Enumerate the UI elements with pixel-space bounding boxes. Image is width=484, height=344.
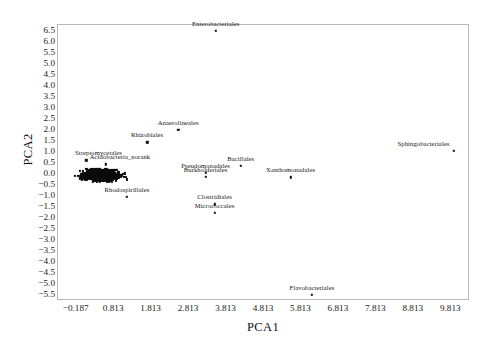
data-point	[115, 176, 117, 178]
data-point-label: Flavobacteriales	[290, 284, 335, 291]
data-point	[88, 169, 90, 171]
data-point	[82, 172, 84, 174]
data-point	[124, 172, 126, 174]
data-point	[111, 181, 113, 183]
data-point	[289, 176, 291, 178]
plot-area	[57, 24, 469, 300]
data-point-label: Burkholderiales	[184, 166, 228, 173]
y-axis-tick: −3.5	[5, 245, 55, 255]
data-point-label: Rhodospirillales	[105, 186, 150, 193]
y-axis-tick: −0.5	[5, 179, 55, 189]
y-axis-tick: 4.5	[5, 69, 55, 79]
data-point-label: Rhizobiales	[131, 131, 163, 138]
y-axis-tick: −1.0	[5, 190, 55, 200]
data-point	[80, 175, 82, 177]
data-point	[240, 165, 242, 167]
data-point	[98, 168, 100, 170]
y-axis-tick: −3.0	[5, 234, 55, 244]
y-axis-tick: −4.5	[5, 267, 55, 277]
data-point	[92, 178, 94, 180]
data-point	[103, 180, 105, 182]
data-point-label: Bacillales	[227, 155, 254, 162]
y-axis-tick: 3.0	[5, 102, 55, 112]
y-axis-tick: −2.0	[5, 212, 55, 222]
data-point	[106, 175, 108, 177]
data-point	[117, 172, 119, 174]
y-axis-tick: −1.5	[5, 201, 55, 211]
data-point-label: Sphingobacteriales	[398, 140, 450, 147]
data-point	[96, 177, 98, 179]
y-axis-tick: −5.0	[5, 278, 55, 288]
data-point	[452, 149, 454, 151]
data-point-label: Enterobacteriales	[192, 20, 239, 27]
y-axis-tick: −2.5	[5, 223, 55, 233]
x-axis-tick-layer: −0.1870.8131.8132.8133.8134.8135.8136.81…	[0, 303, 484, 319]
pca-scatter-chart: 6.56.05.55.04.54.03.53.02.52.01.51.00.50…	[0, 0, 484, 344]
x-axis-title: PCA1	[57, 320, 469, 335]
data-point	[74, 175, 76, 177]
y-axis-tick: −5.5	[5, 289, 55, 299]
y-axis-tick: 5.5	[5, 47, 55, 57]
data-point	[79, 170, 81, 172]
data-point	[111, 173, 113, 175]
data-point	[204, 176, 206, 178]
data-point-label: Anaerolineales	[158, 119, 199, 126]
data-point	[91, 173, 93, 175]
y-axis-tick: 6.0	[5, 36, 55, 46]
y-axis-tick: 5.0	[5, 58, 55, 68]
data-point	[110, 177, 112, 179]
data-point	[146, 141, 148, 143]
data-point	[92, 181, 94, 183]
data-point	[214, 29, 216, 31]
x-axis-tick: 9.813	[422, 303, 478, 313]
data-point	[86, 178, 88, 180]
data-point	[85, 159, 87, 161]
data-point	[177, 129, 179, 131]
data-point	[126, 196, 128, 198]
y-axis-title: PCA2	[21, 120, 36, 180]
data-point-label: Clostridiales	[197, 193, 232, 200]
data-point	[311, 294, 313, 296]
data-point	[123, 176, 125, 178]
y-axis-tick: 4.0	[5, 80, 55, 90]
data-point	[107, 179, 109, 181]
data-point-label: Acidobacteria_norank	[90, 153, 151, 160]
y-axis-tick: 3.5	[5, 91, 55, 101]
data-point	[101, 177, 103, 179]
y-axis-tick: 6.5	[5, 25, 55, 35]
y-axis-tick: −4.0	[5, 256, 55, 266]
data-point	[115, 179, 117, 181]
data-point-label: Micrococcales	[195, 202, 235, 209]
data-point-label: Xanthomonadales	[266, 166, 315, 173]
data-point	[105, 163, 107, 165]
data-point	[94, 171, 96, 173]
data-point	[126, 178, 128, 180]
data-point	[103, 173, 105, 175]
data-point	[99, 173, 101, 175]
data-point	[213, 212, 215, 214]
